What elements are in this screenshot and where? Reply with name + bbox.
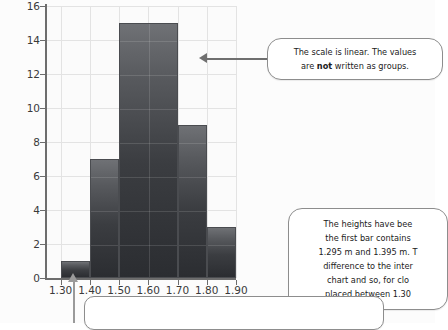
y-axis-tick-mark	[40, 142, 45, 143]
gridline-horizontal-over-bar	[120, 177, 176, 178]
gridline-horizontal-over-bar	[120, 41, 176, 42]
scale-callout-arrow-head-icon	[199, 53, 207, 63]
y-axis-tick-mark	[40, 108, 45, 109]
gridline-horizontal-over-bar	[179, 143, 206, 144]
callout-scale-is-linear: The scale is linear. The values are not …	[267, 38, 443, 80]
y-axis-tick-label: 12	[0, 68, 40, 80]
callout-scale-emphasis: not	[317, 61, 332, 71]
callout-scale-line-2: are not written as groups.	[275, 59, 435, 73]
y-axis-tick-label: 2	[0, 238, 40, 250]
y-axis-tick-mark	[40, 210, 45, 211]
histogram-bar	[207, 227, 236, 278]
y-axis-tick-label: 14	[0, 34, 40, 46]
callout-scale-line-2-pre: are	[301, 61, 317, 71]
callout-scale-line-2-post: written as groups.	[332, 61, 409, 71]
x-axis-tick-label: 1.30	[49, 284, 72, 296]
bottom-callout-arrow-head-icon	[68, 273, 78, 282]
y-axis-tick-mark	[40, 176, 45, 177]
y-axis-tick-label: 4	[0, 204, 40, 216]
callout-scale-line-1: The scale is linear. The values	[275, 45, 435, 59]
gridline-vertical	[61, 6, 62, 278]
scale-callout-arrow-line	[205, 58, 269, 60]
y-axis-tick-label: 16	[0, 0, 40, 12]
y-axis-tick-mark	[40, 40, 45, 41]
y-axis-line	[45, 4, 47, 280]
callout-heights-line-1: The heights have bee	[296, 217, 440, 231]
gridline-horizontal-over-bar	[91, 211, 118, 212]
callout-heights-line-4: difference to the inter	[296, 259, 440, 273]
gridline-horizontal-over-bar	[120, 143, 176, 144]
histogram-figure: 0246810121416 1.301.401.501.601.701.801.…	[0, 0, 250, 323]
callout-heights-line-5: chart and so, for clo	[296, 273, 440, 287]
gridline-horizontal-over-bar	[179, 245, 206, 246]
x-axis-tick-label: 1.50	[107, 284, 130, 296]
gridline-horizontal-over-bar	[120, 245, 176, 246]
y-axis-tick-mark	[40, 278, 45, 279]
gridline-horizontal-over-bar	[91, 177, 118, 178]
x-axis-tick-label: 1.80	[195, 284, 218, 296]
callout-heights-line-3: 1.295 m and 1.395 m. T	[296, 245, 440, 259]
gridline-vertical	[236, 6, 237, 278]
gridline-horizontal-over-bar	[179, 211, 206, 212]
y-axis-tick-label: 10	[0, 102, 40, 114]
gridline-horizontal-over-bar	[179, 177, 206, 178]
callout-bottom	[84, 296, 384, 330]
gridline-horizontal-over-bar	[120, 211, 176, 212]
gridline-horizontal-over-bar	[120, 109, 176, 110]
x-axis-tick-label: 1.60	[137, 284, 160, 296]
y-axis-tick-mark	[40, 244, 45, 245]
y-axis-tick-label: 8	[0, 136, 40, 148]
callout-heights-line-2: the first bar contains	[296, 231, 440, 245]
bottom-callout-connector-line	[73, 282, 75, 323]
gridline-vertical-over-bar	[149, 24, 150, 277]
y-axis-tick-label: 6	[0, 170, 40, 182]
callout-heights-rounding: The heights have bee the first bar conta…	[288, 208, 448, 310]
gridline-horizontal-over-bar	[208, 245, 235, 246]
y-axis-tick-mark	[40, 74, 45, 75]
x-axis-tick-label: 1.70	[166, 284, 189, 296]
histogram-bar	[90, 159, 119, 278]
gridline-horizontal-over-bar	[120, 75, 176, 76]
x-axis-tick-label: 1.90	[224, 284, 247, 296]
y-axis-tick-mark	[40, 6, 45, 7]
histogram-bar	[119, 23, 177, 278]
x-axis-tick-label: 1.40	[78, 284, 101, 296]
gridline-horizontal-over-bar	[91, 245, 118, 246]
y-axis-tick-label: 0	[0, 272, 40, 284]
histogram-bar	[178, 125, 207, 278]
